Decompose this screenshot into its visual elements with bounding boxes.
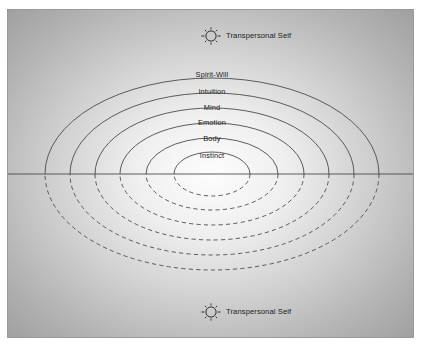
- diagram-panel: [8, 10, 414, 338]
- ring-label-intuition: Intuition: [198, 87, 225, 96]
- transpersonal-self-label-bottom: Transpersonal Self: [226, 307, 292, 316]
- ring-label-instinct: Instinct: [200, 151, 225, 160]
- ring-label-emotion: Emotion: [198, 118, 226, 127]
- transpersonal-self-label-top: Transpersonal Self: [226, 31, 292, 40]
- diagram-stage: Spirit-Will Intuition Mind Emotion Body …: [0, 0, 423, 346]
- ring-label-mind: Mind: [204, 103, 221, 112]
- transpersonal-self-diagram: Spirit-Will Intuition Mind Emotion Body …: [0, 0, 423, 346]
- ring-label-spirit-will: Spirit-Will: [196, 70, 229, 79]
- ring-label-body: Body: [203, 134, 221, 143]
